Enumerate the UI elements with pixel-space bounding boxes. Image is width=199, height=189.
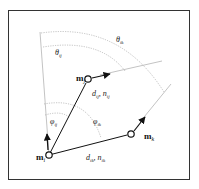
label-mj: mj bbox=[76, 73, 86, 84]
label-theta-ij: θij bbox=[55, 48, 62, 58]
label-mk: mk bbox=[144, 131, 155, 142]
mj-orientation-ray bbox=[100, 61, 162, 75]
angle-arcs bbox=[41, 32, 164, 138]
edge-ij bbox=[49, 83, 86, 155]
label-theta-ik: θik bbox=[116, 35, 124, 45]
label-phi-ij: φij bbox=[50, 117, 58, 127]
edge-ik bbox=[49, 135, 127, 155]
label-edge-ik: dik,nik bbox=[86, 153, 106, 163]
label-mi: mi bbox=[36, 152, 46, 163]
mk-orientation-arrow bbox=[134, 117, 145, 131]
arc-theta-ik bbox=[41, 32, 164, 92]
label-edge-ij: dij,nij bbox=[92, 89, 110, 99]
mk-orientation-ray bbox=[140, 84, 171, 122]
node-mk bbox=[128, 131, 134, 137]
nodes bbox=[46, 76, 134, 158]
orientation-arrows bbox=[47, 74, 145, 150]
edges bbox=[49, 83, 127, 155]
relation-diagram: mi mj mk dij,nij dik,nik θik θij φij φik bbox=[0, 0, 199, 189]
node-mi bbox=[46, 152, 52, 158]
label-phi-ik: φik bbox=[93, 117, 102, 127]
node-mj bbox=[85, 76, 91, 82]
arc-phi-ij bbox=[45, 113, 70, 118]
